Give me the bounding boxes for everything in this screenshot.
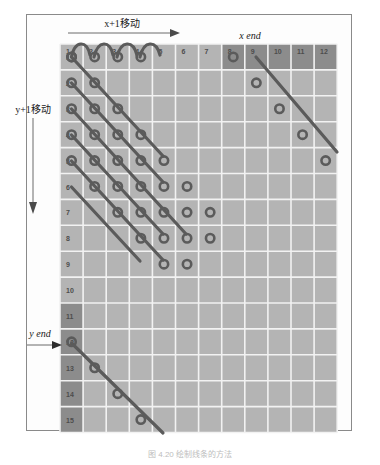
figure-caption: 图 4.20 绘制线条的方法	[0, 448, 380, 459]
figure-root: 123456789101112123456789101112131415	[0, 0, 380, 465]
figure-frame	[26, 14, 352, 431]
